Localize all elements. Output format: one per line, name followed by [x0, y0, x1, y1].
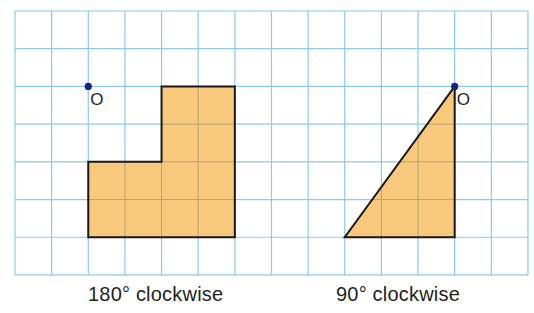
caption-180-clockwise: 180° clockwise [88, 283, 223, 306]
rotation-center-point-right [451, 83, 458, 90]
rotation-diagram [0, 0, 534, 313]
center-label-left: O [90, 90, 103, 110]
center-label-right: O [457, 90, 470, 110]
rotation-center-point-left [85, 83, 92, 90]
caption-90-clockwise: 90° clockwise [336, 283, 460, 306]
